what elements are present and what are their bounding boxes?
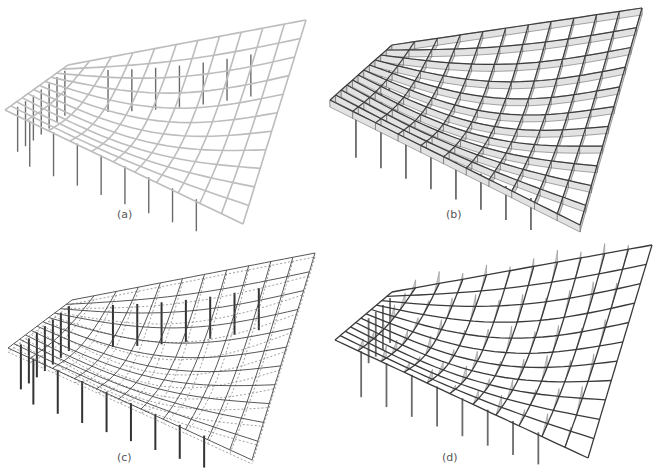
panel-label-c: (c) [117,451,132,464]
gridshell-c-drawing [0,240,330,471]
gridshell-a-drawing [0,0,330,235]
panel-label-b: (b) [446,208,462,221]
panel-a: (a) [0,0,330,235]
panel-label-d: (d) [442,451,458,464]
gridshell-b-drawing [330,0,659,235]
panel-b: (b) [330,0,659,235]
panel-c: (c) [0,240,330,471]
panel-d: (d) [330,240,659,471]
gridshell-d-drawing [330,240,659,471]
panel-label-a: (a) [117,208,132,221]
